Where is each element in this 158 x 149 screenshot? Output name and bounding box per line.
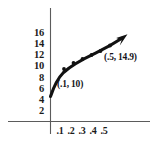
data-point xyxy=(99,49,103,53)
y-tick-label-4: 4 xyxy=(26,95,44,106)
y-tick-label-6: 6 xyxy=(26,84,44,95)
x-tick-label-0-5: .5 xyxy=(98,126,110,136)
y-tick-label-14: 14 xyxy=(26,39,44,50)
y-tick-label-12: 12 xyxy=(26,50,44,61)
y-tick-label-8: 8 xyxy=(26,73,44,84)
data-point xyxy=(72,61,76,65)
annotation-left-point: (.1, 10) xyxy=(57,80,83,90)
y-tick-label-2: 2 xyxy=(26,106,44,117)
chart-figure: 16 14 12 10 8 6 4 2 .1 .2 .3 .4 .5 (.1, … xyxy=(0,0,158,149)
y-tick-label-16: 16 xyxy=(26,28,44,39)
data-point xyxy=(108,44,112,48)
data-point xyxy=(62,67,66,71)
data-point xyxy=(81,57,85,61)
y-tick-label-10: 10 xyxy=(26,61,44,72)
data-point xyxy=(90,53,94,57)
annotation-right-point: (.5, 14.9) xyxy=(104,53,137,63)
